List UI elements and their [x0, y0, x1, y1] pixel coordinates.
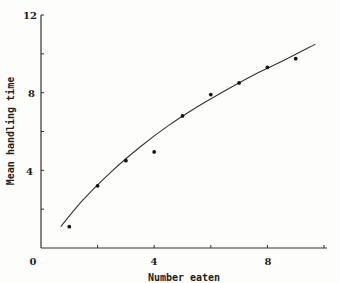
data-point	[294, 57, 298, 61]
chart: 0 4 8 4 8 12 Number eaten Mean handling …	[0, 0, 340, 283]
y-tick-label-4: 4	[26, 166, 33, 177]
data-point	[266, 66, 270, 70]
x-tick-label-4: 4	[151, 256, 158, 267]
x-tick-label-0: 0	[30, 256, 37, 267]
ticks	[41, 15, 324, 248]
data-point	[124, 159, 128, 163]
y-axis-title: Mean handling time	[5, 77, 16, 185]
y-tick-label-12: 12	[23, 10, 37, 21]
fitted-curve	[61, 44, 316, 227]
x-axis-title: Number eaten	[148, 272, 220, 283]
data-point	[67, 225, 71, 229]
data-point	[209, 93, 213, 97]
y-tick-label-8: 8	[28, 88, 35, 99]
x-tick-label-8: 8	[265, 256, 272, 267]
data-point	[152, 150, 156, 154]
axes	[41, 15, 327, 248]
data-points	[67, 57, 297, 229]
data-point	[181, 114, 185, 118]
data-point	[96, 184, 100, 188]
data-point	[237, 81, 241, 85]
tick-labels: 0 4 8 4 8 12	[23, 10, 271, 267]
